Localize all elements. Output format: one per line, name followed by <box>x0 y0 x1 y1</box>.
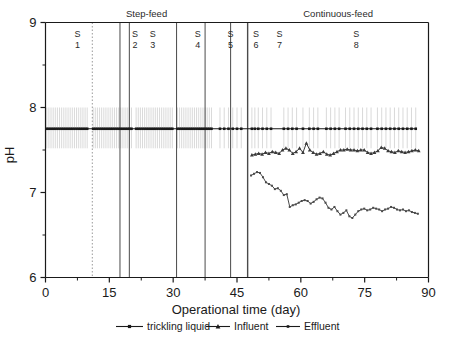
phase-label-2: Continuous-feed <box>303 8 373 19</box>
marker-square <box>317 127 320 130</box>
marker-square <box>399 209 401 211</box>
stage-label-num-1: 1 <box>75 40 80 50</box>
stage-label-top-2: S <box>132 29 138 39</box>
y-tick-label: 9 <box>29 15 36 30</box>
marker-square <box>363 208 365 210</box>
marker-square <box>327 207 329 209</box>
marker-square <box>402 209 404 211</box>
ph-chart-figure: Step-feedContinuous-feed S1S2S3S4S5S6S7S… <box>0 0 457 342</box>
marker-square <box>414 212 416 214</box>
marker-square <box>301 200 303 202</box>
x-axis-title: Operational time (day) <box>172 302 301 317</box>
legend-marker-square <box>287 325 290 328</box>
marker-square <box>240 127 243 130</box>
marker-square <box>254 127 257 130</box>
marker-square <box>210 127 213 130</box>
marker-square <box>322 197 324 199</box>
marker-square <box>316 198 318 200</box>
stage-label-num-3: 3 <box>150 40 155 50</box>
marker-square <box>274 188 276 190</box>
x-tick-label: 15 <box>102 285 116 300</box>
marker-square <box>313 201 315 203</box>
marker-square <box>381 210 383 212</box>
marker-square <box>219 127 222 130</box>
stage-label-num-5: 5 <box>228 40 233 50</box>
marker-square <box>334 127 337 130</box>
marker-square <box>354 214 356 216</box>
y-tick-label: 6 <box>29 270 36 285</box>
marker-square <box>289 206 291 208</box>
legend-label-text: Effluent <box>304 320 339 332</box>
stage-label-num-8: 8 <box>354 40 359 50</box>
marker-square <box>414 127 417 130</box>
marker-square <box>268 183 270 185</box>
marker-square <box>253 173 255 175</box>
marker-square <box>310 203 312 205</box>
marker-square <box>265 181 267 183</box>
y-tick-label: 8 <box>29 100 36 115</box>
marker-square <box>360 209 362 211</box>
marker-square <box>325 127 328 130</box>
marker-square <box>396 209 398 211</box>
marker-square <box>291 127 294 130</box>
marker-square <box>295 127 298 130</box>
marker-square <box>372 207 374 209</box>
marker-square <box>365 127 368 130</box>
marker-square <box>330 209 332 211</box>
marker-square <box>329 127 332 130</box>
marker-square <box>366 209 368 211</box>
marker-square <box>261 127 264 130</box>
marker-square <box>376 127 379 130</box>
marker-square <box>283 127 286 130</box>
marker-square <box>417 213 419 215</box>
y-axis-title: pH <box>2 147 17 164</box>
marker-square <box>308 127 311 130</box>
marker-square <box>402 127 405 130</box>
x-tick-label: 90 <box>421 285 435 300</box>
stage-label-top-3: S <box>150 29 156 39</box>
marker-square <box>250 175 252 177</box>
marker-square <box>408 209 410 211</box>
marker-square <box>397 127 400 130</box>
marker-square <box>280 190 282 192</box>
marker-square <box>304 199 306 201</box>
marker-square <box>171 127 174 130</box>
marker-square <box>307 200 309 202</box>
marker-square <box>361 127 364 130</box>
marker-square <box>338 127 341 130</box>
marker-square <box>256 171 258 173</box>
marker-square <box>393 127 396 130</box>
chart-background <box>0 0 457 342</box>
marker-square <box>406 127 409 130</box>
marker-square <box>357 127 360 130</box>
marker-square <box>405 210 407 212</box>
marker-square <box>319 197 321 199</box>
marker-square <box>227 127 230 130</box>
marker-square <box>325 202 327 204</box>
marker-square <box>370 127 373 130</box>
marker-square <box>357 210 359 212</box>
marker-square <box>277 187 279 189</box>
legend-label-text: trickling liquid <box>147 320 210 332</box>
y-tick-label: 7 <box>29 185 36 200</box>
marker-square <box>348 215 350 217</box>
marker-square <box>351 217 353 219</box>
marker-square <box>333 206 335 208</box>
stage-label-num-4: 4 <box>195 40 200 50</box>
marker-square <box>265 127 268 130</box>
x-tick-label: 30 <box>166 285 180 300</box>
x-tick-label: 60 <box>294 285 308 300</box>
marker-square <box>130 127 133 130</box>
marker-square <box>287 127 290 130</box>
stage-label-top-6: S <box>253 29 259 39</box>
marker-square <box>286 193 288 195</box>
marker-square <box>390 206 392 208</box>
marker-square <box>223 127 226 130</box>
legend-marker-square <box>128 325 131 328</box>
stage-label-top-4: S <box>195 29 201 39</box>
marker-square <box>384 209 386 211</box>
marker-square <box>348 127 351 130</box>
marker-square <box>312 127 315 130</box>
marker-square <box>387 208 389 210</box>
marker-square <box>251 127 254 130</box>
